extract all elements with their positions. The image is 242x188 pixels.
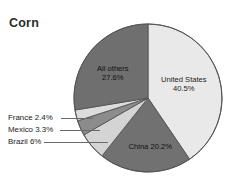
slice-label-all-others: All others 27.6%: [97, 64, 129, 83]
slice-label-china: China 20.2%: [129, 142, 172, 151]
slice-label-united-states-value: 40.5%: [161, 84, 207, 93]
leader-line-brazil: [44, 142, 108, 143]
pie-chart-figure: Corn United States 40.5% All others 27.6…: [0, 0, 242, 188]
slice-label-united-states: United States 40.5%: [161, 75, 207, 94]
leader-line-mexico: [60, 130, 100, 131]
leader-line-france: [61, 118, 93, 119]
slice-label-all-others-value: 27.6%: [97, 73, 129, 82]
callout-label-mexico: Mexico 3.3%: [8, 125, 53, 135]
slice-label-all-others-name: All others: [97, 64, 129, 73]
callout-label-brazil: Brazil 6%: [8, 137, 41, 147]
pie-chart-graphic: [0, 0, 242, 188]
slice-label-china-text: China 20.2%: [129, 142, 172, 151]
slice-label-united-states-name: United States: [161, 75, 207, 84]
callout-label-france: France 2.4%: [8, 113, 53, 123]
